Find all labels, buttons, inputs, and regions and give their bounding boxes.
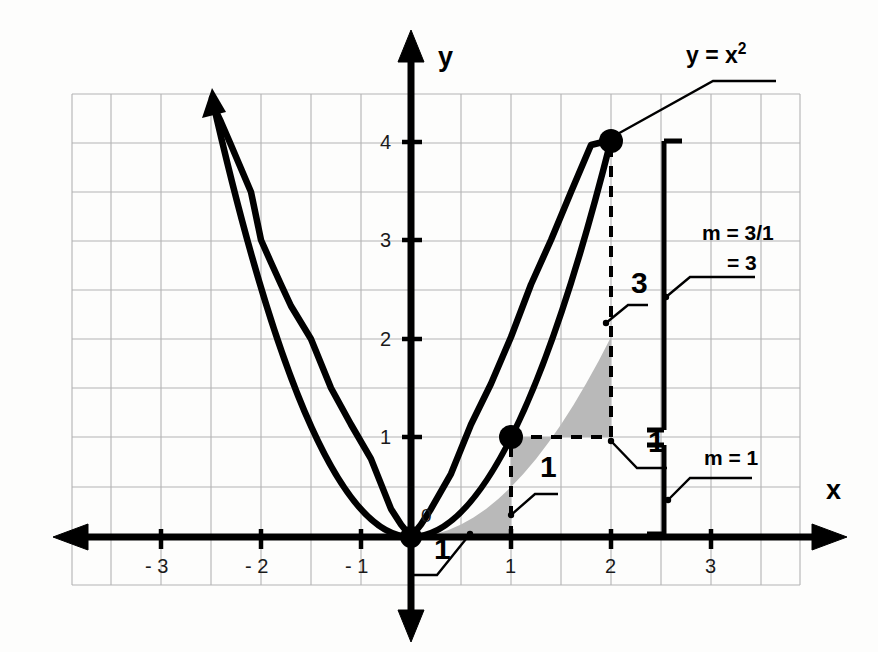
unit-run-label-1: 1 bbox=[434, 534, 451, 564]
slope-upper-label-line2: = 3 bbox=[727, 252, 757, 273]
run-label-1: 1 bbox=[648, 427, 665, 457]
tick-marks bbox=[161, 142, 711, 549]
leader-curve-label bbox=[614, 81, 776, 136]
x-axis-arrow-right bbox=[812, 524, 847, 550]
parabola-arrow-left-branch bbox=[202, 88, 226, 118]
leader-slope-lower bbox=[668, 478, 752, 500]
grid-lines bbox=[72, 94, 800, 585]
y-axis-arrow-up bbox=[398, 30, 424, 62]
x-axis-label: x bbox=[826, 477, 841, 504]
y-axis-label: y bbox=[438, 44, 453, 71]
callout-leader-lines bbox=[408, 81, 776, 575]
origin-label: 0 bbox=[421, 506, 432, 525]
rise-label-3: 3 bbox=[631, 268, 648, 298]
curve-equation-text: y = x bbox=[686, 42, 738, 68]
leader-unit-rise-1 bbox=[511, 494, 558, 515]
point-1-1 bbox=[499, 425, 523, 449]
y-tick-label-4: 4 bbox=[380, 132, 391, 152]
slope-upper-label-line1: m = 3/1 bbox=[702, 222, 774, 243]
x-tick-label-3: 3 bbox=[705, 556, 716, 576]
slope-lower-label: m = 1 bbox=[704, 447, 758, 468]
y-axis-arrow-down bbox=[398, 610, 424, 642]
x-axis-arrow-left bbox=[53, 524, 88, 550]
curve-equation-exponent: 2 bbox=[738, 40, 747, 57]
x-tick-label-neg3: - 3 bbox=[145, 556, 168, 576]
figure-container: y x 0 - 3 - 2 - 1 1 2 3 1 2 3 4 y = x2 3… bbox=[0, 0, 878, 652]
y-tick-label-3: 3 bbox=[380, 230, 391, 250]
x-tick-label-neg2: - 2 bbox=[245, 556, 268, 576]
curve-equation-label: y = x2 bbox=[686, 41, 747, 67]
x-tick-label-neg1: - 1 bbox=[345, 556, 368, 576]
y-tick-label-2: 2 bbox=[380, 329, 391, 349]
unit-rise-label-1: 1 bbox=[540, 452, 557, 482]
point-origin bbox=[400, 526, 422, 548]
slope-brackets bbox=[647, 141, 682, 534]
x-tick-label-1: 1 bbox=[505, 556, 516, 576]
y-tick-label-1: 1 bbox=[380, 427, 391, 447]
x-tick-label-2: 2 bbox=[605, 556, 616, 576]
